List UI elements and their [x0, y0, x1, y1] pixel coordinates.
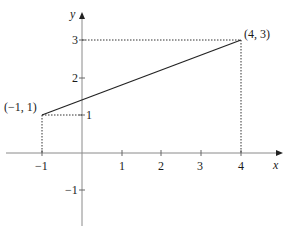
y-tick-label: 2 — [72, 71, 78, 85]
x-tick-label: 3 — [197, 159, 203, 173]
x-tick-label: 2 — [158, 159, 164, 173]
point-label-a: (−1, 1) — [4, 100, 37, 114]
y-axis-label: y — [69, 7, 76, 21]
y-tick-label: 3 — [72, 33, 78, 47]
x-tick-label: 4 — [238, 159, 244, 173]
x-axis-label: x — [272, 158, 279, 172]
point-label-b: (4, 3) — [244, 27, 270, 41]
y-tick-label: 1 — [86, 108, 92, 122]
x-tick-label: 1 — [119, 159, 125, 173]
y-tick-label: −1 — [65, 183, 78, 197]
guide-lines — [42, 40, 241, 153]
y-axis-arrow-icon — [79, 12, 85, 19]
x-tick-label: −1 — [35, 159, 48, 173]
chart-canvas: x y −1 1 2 3 4 3 2 1 −1 (−1, 1) (4, 3) — [0, 0, 289, 233]
x-axis-arrow-icon — [276, 150, 283, 156]
